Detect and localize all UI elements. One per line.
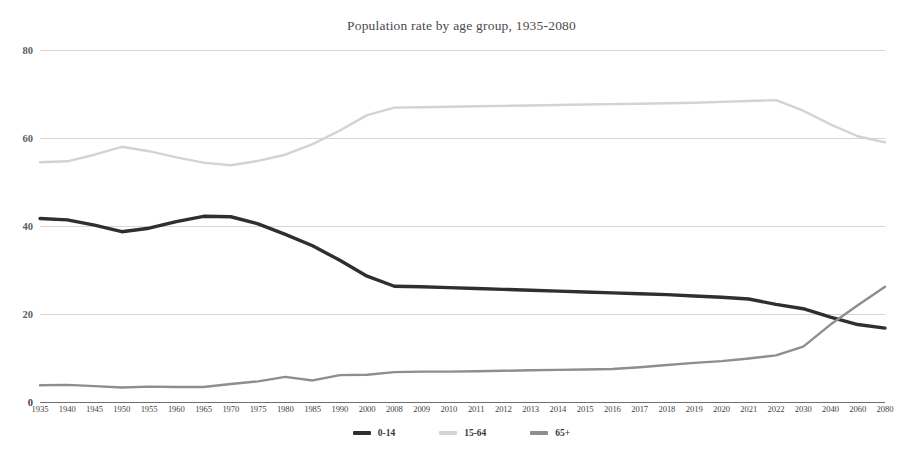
x-axis-tick-label: 2013 (522, 404, 539, 414)
series-line-0-14 (40, 216, 885, 328)
x-axis-tick-label: 1990 (331, 404, 348, 414)
x-axis-tick-label: 2019 (686, 404, 703, 414)
x-axis-tick-label: 1965 (195, 404, 212, 414)
legend-swatch-icon (353, 431, 371, 435)
x-axis-tick-label: 1960 (168, 404, 185, 414)
x-axis-tick-label: 2014 (549, 404, 566, 414)
x-axis-tick-label: 1980 (277, 404, 294, 414)
x-axis-tick-label: 2008 (386, 404, 403, 414)
x-axis-tick-label: 2030 (795, 404, 812, 414)
y-axis-tick-label: 80 (23, 45, 34, 56)
y-axis-tick-label: 40 (23, 221, 34, 232)
chart-container: Population rate by age group, 1935-2080 … (0, 0, 923, 464)
gridline-0: 0 (40, 402, 885, 403)
chart-title: Population rate by age group, 1935-2080 (0, 18, 923, 34)
plot-area: 020406080 (40, 50, 885, 402)
x-axis-tick-label: 2000 (359, 404, 376, 414)
series-line-15-64 (40, 100, 885, 165)
y-axis-tick-label: 20 (23, 309, 34, 320)
legend-swatch-icon (530, 431, 548, 435)
x-axis-tick-label: 2018 (659, 404, 676, 414)
x-axis-tick-label: 2020 (713, 404, 730, 414)
x-axis-tick-label: 2021 (740, 404, 757, 414)
legend-label: 65+ (555, 428, 570, 438)
x-axis-tick-label: 2011 (468, 404, 484, 414)
series-group (40, 50, 885, 402)
x-axis-tick-label: 2060 (849, 404, 866, 414)
legend-item-15-64[interactable]: 15-64 (439, 428, 486, 438)
legend-item-65+[interactable]: 65+ (530, 428, 570, 438)
legend-item-0-14[interactable]: 0-14 (353, 428, 395, 438)
x-axis-tick-label: 1935 (32, 404, 49, 414)
legend-label: 0-14 (378, 428, 395, 438)
legend-label: 15-64 (464, 428, 486, 438)
chart-legend: 0-1415-6465+ (0, 428, 923, 438)
x-axis-tick-label: 1970 (222, 404, 239, 414)
x-axis-tick-label: 1950 (113, 404, 130, 414)
x-axis-tick-label: 2015 (577, 404, 594, 414)
x-axis-tick-label: 2080 (877, 404, 894, 414)
x-axis-tick-label: 1940 (59, 404, 76, 414)
x-axis-tick-label: 1955 (141, 404, 158, 414)
x-axis-tick-label: 2009 (413, 404, 430, 414)
x-axis-tick-label: 2016 (604, 404, 621, 414)
x-axis-tick-label: 2012 (495, 404, 512, 414)
x-axis-tick-labels: 1935194019451950195519601965197019751980… (40, 404, 885, 420)
x-axis-tick-label: 2040 (822, 404, 839, 414)
x-axis-tick-label: 1985 (304, 404, 321, 414)
x-axis-tick-label: 2010 (440, 404, 457, 414)
x-axis-tick-label: 1945 (86, 404, 103, 414)
legend-swatch-icon (439, 431, 457, 435)
x-axis-tick-label: 2017 (631, 404, 648, 414)
y-axis-tick-label: 60 (23, 133, 34, 144)
x-axis-tick-label: 1975 (250, 404, 267, 414)
x-axis-tick-label: 2022 (768, 404, 785, 414)
